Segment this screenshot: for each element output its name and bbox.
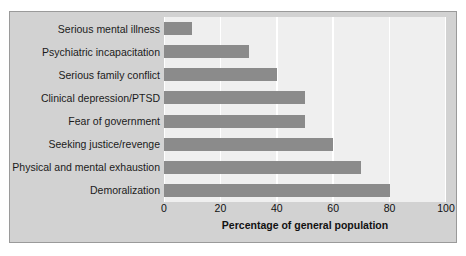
gridline-100	[445, 17, 446, 202]
bar	[164, 161, 361, 174]
x-axis: 020406080100	[164, 202, 446, 218]
x-tick-label: 20	[215, 202, 227, 214]
bar	[164, 45, 249, 58]
bar	[164, 184, 390, 197]
x-tick-label: 60	[327, 202, 339, 214]
category-label: Psychiatric incapacitation	[42, 41, 160, 63]
category-axis: Serious mental illnessPsychiatric incapa…	[10, 17, 164, 202]
category-label: Clinical depression/PTSD	[41, 87, 160, 109]
gridline-60	[332, 17, 334, 202]
x-tick-label: 100	[437, 202, 455, 214]
category-label: Fear of government	[68, 110, 160, 132]
gridline-80	[389, 17, 391, 202]
chart-body: Serious mental illnessPsychiatric incapa…	[10, 17, 458, 202]
bar	[164, 91, 305, 104]
gridline-40	[276, 17, 278, 202]
x-tick-label: 0	[161, 202, 167, 214]
category-label: Physical and mental exhaustion	[12, 156, 160, 178]
x-tick-label: 80	[384, 202, 396, 214]
plot-area	[164, 17, 446, 202]
bar	[164, 138, 333, 151]
x-axis-title: Percentage of general population	[164, 219, 446, 231]
bar	[164, 68, 277, 81]
category-label: Serious family conflict	[58, 64, 160, 86]
category-label: Seeking justice/revenge	[49, 133, 161, 155]
x-tick-label: 40	[271, 202, 283, 214]
bar	[164, 115, 305, 128]
category-label: Serious mental illness	[58, 18, 160, 40]
chart-figure: Serious mental illnessPsychiatric incapa…	[9, 11, 457, 243]
category-label: Demoralization	[90, 179, 160, 201]
bar	[164, 22, 192, 35]
